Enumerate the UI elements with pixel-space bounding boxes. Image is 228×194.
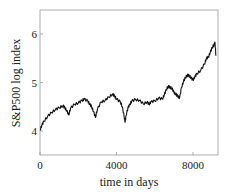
chart-container: 456 040008000 time in days S&P500 log in… [0,0,228,194]
data-line [40,42,216,130]
y-tick-label: 6 [32,28,38,40]
y-tick-label: 5 [32,77,38,89]
x-tick-label: 4000 [106,159,129,171]
x-tick-label: 0 [37,159,43,171]
plot-frame [40,10,218,155]
x-tick-label: 8000 [182,159,205,171]
y-axis-label: S&P500 log index [9,39,23,128]
y-tick-label: 4 [32,125,38,137]
y-axis: 456 [32,28,44,137]
x-axis-label: time in days [100,175,159,189]
